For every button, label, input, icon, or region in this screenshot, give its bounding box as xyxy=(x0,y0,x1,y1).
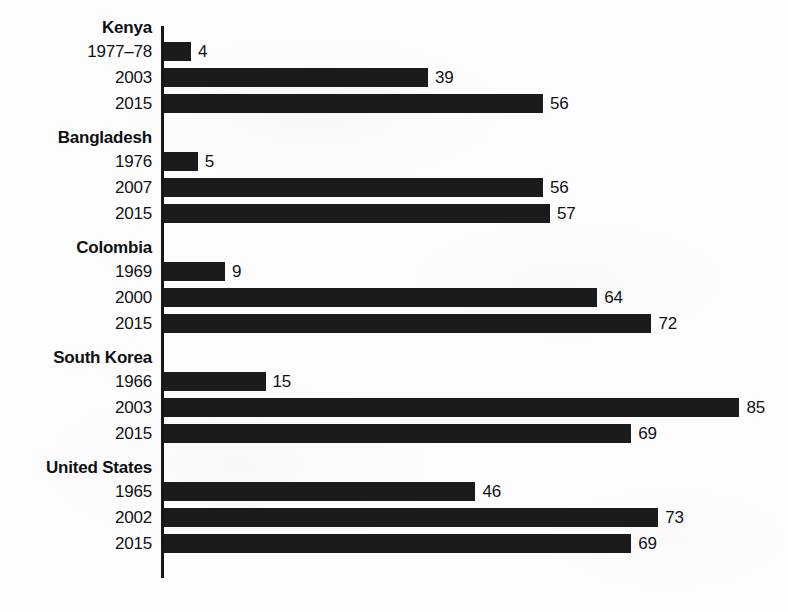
year-label: 2002 xyxy=(0,508,152,527)
year-label: 1965 xyxy=(0,482,152,501)
bar-value-label: 64 xyxy=(604,288,623,307)
bar-value-label: 85 xyxy=(746,398,765,417)
bar-row: 201572 xyxy=(0,314,788,333)
bar xyxy=(164,152,198,171)
bar-row: 201569 xyxy=(0,424,788,443)
group-label-colombia: Colombia xyxy=(0,238,152,258)
group-label-south-korea: South Korea xyxy=(0,348,152,368)
bar-value-label: 9 xyxy=(232,262,241,281)
bar-value-label: 69 xyxy=(638,534,657,553)
bar-row: 19699 xyxy=(0,262,788,281)
group-label-bangladesh: Bangladesh xyxy=(0,128,152,148)
year-label: 2015 xyxy=(0,94,152,113)
year-label: 2015 xyxy=(0,314,152,333)
bar xyxy=(164,262,225,281)
group-label-united-states: United States xyxy=(0,458,152,478)
year-label: 2000 xyxy=(0,288,152,307)
bar-value-label: 56 xyxy=(550,178,569,197)
bar-value-label: 39 xyxy=(435,68,454,87)
year-label: 1976 xyxy=(0,152,152,171)
bar xyxy=(164,42,191,61)
bar xyxy=(164,314,651,333)
bar xyxy=(164,534,631,553)
year-label: 1966 xyxy=(0,372,152,391)
bar-row: 201557 xyxy=(0,204,788,223)
bar-value-label: 69 xyxy=(638,424,657,443)
plot-area: Kenya1977–784200339201556Bangladesh19765… xyxy=(0,0,788,612)
bar-row: 201569 xyxy=(0,534,788,553)
bar xyxy=(164,424,631,443)
bar-row: 201556 xyxy=(0,94,788,113)
bar xyxy=(164,372,266,391)
bar-value-label: 15 xyxy=(273,372,292,391)
bar-value-label: 56 xyxy=(550,94,569,113)
bar-row: 200385 xyxy=(0,398,788,417)
year-label: 2007 xyxy=(0,178,152,197)
bar xyxy=(164,94,543,113)
year-label: 2015 xyxy=(0,534,152,553)
bar xyxy=(164,288,597,307)
bar-value-label: 72 xyxy=(658,314,677,333)
bar-value-label: 46 xyxy=(482,482,501,501)
bar xyxy=(164,508,658,527)
bar-value-label: 73 xyxy=(665,508,684,527)
year-label: 1977–78 xyxy=(0,42,152,61)
bar-chart: Kenya1977–784200339201556Bangladesh19765… xyxy=(0,0,788,612)
bar-value-label: 4 xyxy=(198,42,207,61)
bar-row: 196615 xyxy=(0,372,788,391)
bar-row: 200756 xyxy=(0,178,788,197)
bar xyxy=(164,482,475,501)
bar-row: 19765 xyxy=(0,152,788,171)
year-label: 2003 xyxy=(0,68,152,87)
bar-value-label: 57 xyxy=(557,204,576,223)
bar-value-label: 5 xyxy=(205,152,214,171)
bar xyxy=(164,398,739,417)
group-label-kenya: Kenya xyxy=(0,18,152,38)
year-label: 2015 xyxy=(0,204,152,223)
year-label: 1969 xyxy=(0,262,152,281)
year-label: 2003 xyxy=(0,398,152,417)
bar-row: 196546 xyxy=(0,482,788,501)
bar-row: 200273 xyxy=(0,508,788,527)
bar-row: 1977–784 xyxy=(0,42,788,61)
bar-row: 200064 xyxy=(0,288,788,307)
year-label: 2015 xyxy=(0,424,152,443)
bar xyxy=(164,68,428,87)
bar xyxy=(164,178,543,197)
bar xyxy=(164,204,550,223)
bar-row: 200339 xyxy=(0,68,788,87)
